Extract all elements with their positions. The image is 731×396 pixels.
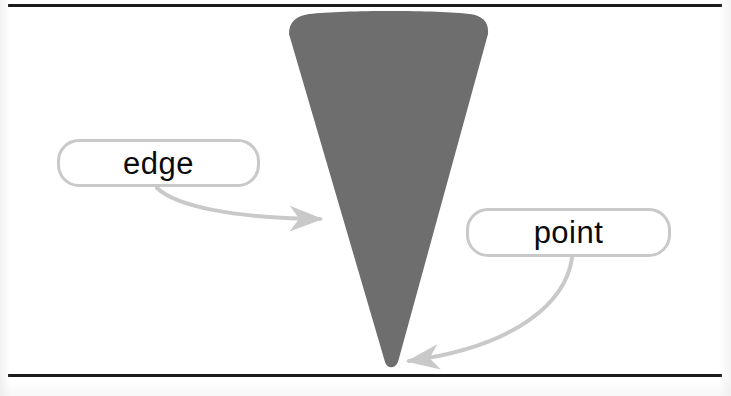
callout-edge[interactable]: edge — [57, 139, 260, 187]
callout-point-label: point — [534, 217, 604, 248]
figure-canvas: edge point — [0, 0, 731, 396]
bottom-rule-line — [8, 374, 722, 377]
edge-callout-arrow — [157, 188, 320, 219]
callout-edge-label: edge — [123, 148, 194, 179]
point-callout-arrow — [409, 258, 572, 361]
callout-point[interactable]: point — [466, 208, 671, 257]
arrow-layer — [0, 0, 731, 396]
top-rule-line — [8, 4, 722, 7]
